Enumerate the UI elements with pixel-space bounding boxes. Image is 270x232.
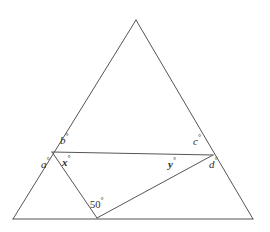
triangle-left-side <box>13 20 136 219</box>
degree-symbol-a: ° <box>47 156 50 165</box>
angle-label-b: b° <box>60 133 69 146</box>
degree-symbol-d: ° <box>215 156 218 165</box>
inner-diagonal-segment <box>97 155 213 218</box>
transversal-line <box>52 152 213 155</box>
angle-label-c: c° <box>193 134 201 147</box>
angle-label-d: d° <box>209 157 218 170</box>
degree-symbol-c: ° <box>198 133 201 142</box>
angle-label-y: y° <box>168 157 176 170</box>
degree-symbol-50: ° <box>101 196 104 205</box>
degree-symbol-x: ° <box>68 154 71 163</box>
triangle-right-side <box>136 20 253 219</box>
angle-label-x: x° <box>62 155 71 168</box>
angle-label-50-text: 50 <box>90 199 101 210</box>
degree-symbol-b: ° <box>66 132 69 141</box>
geometry-canvas <box>0 0 270 232</box>
angle-label-50: 50° <box>90 197 104 210</box>
angle-label-a: a° <box>41 157 50 170</box>
degree-symbol-y: ° <box>173 156 176 165</box>
geometry-figure: b° a° x° c° y° d° 50° <box>0 0 270 232</box>
